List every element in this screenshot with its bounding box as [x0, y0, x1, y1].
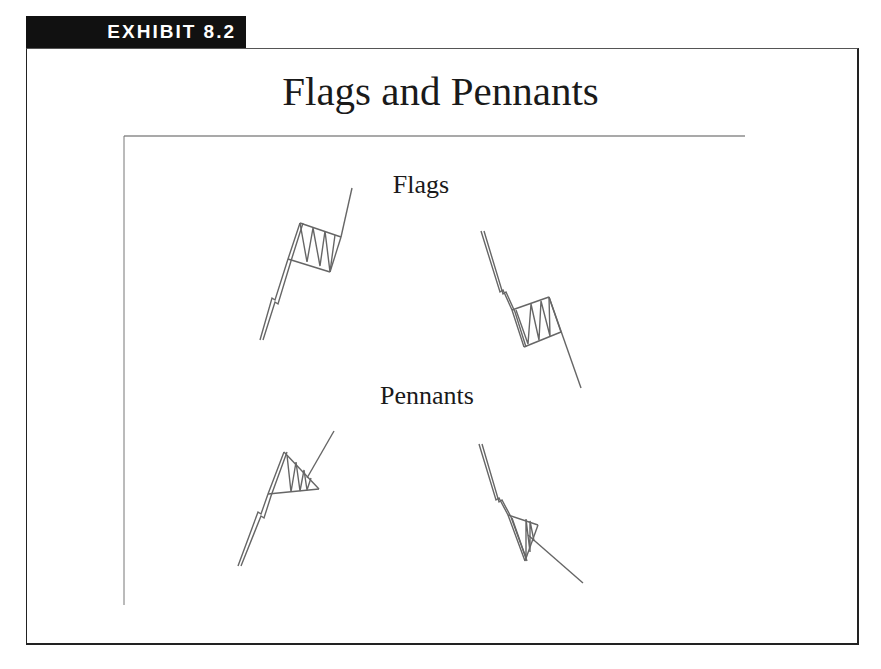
bull-flag-pattern: [260, 188, 352, 340]
pennants-label: Pennants: [380, 381, 474, 410]
bear-flag-pattern: [481, 231, 581, 388]
bear-pennant-pattern: [479, 444, 583, 583]
bull-pennant-pattern: [238, 431, 334, 566]
flags-label: Flags: [393, 170, 449, 199]
flags-pennants-diagram: Flags Pennants: [0, 0, 881, 669]
